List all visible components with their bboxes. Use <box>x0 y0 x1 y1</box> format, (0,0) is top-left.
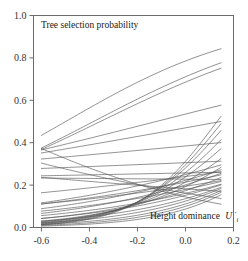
y-tick-label: 0.8 <box>14 52 27 63</box>
x-tick-label: -0.2 <box>130 235 146 246</box>
probability-curve <box>41 105 221 150</box>
probability-curve <box>41 49 221 136</box>
panel-title: Tree selection probability <box>41 20 139 30</box>
x-tick-label: -0.4 <box>82 235 98 246</box>
x-axis-title: Height dominance U ′ i <box>150 208 238 223</box>
x-axis-title-text: Height dominance <box>150 211 220 221</box>
x-axis-symbol: U <box>225 211 233 221</box>
x-tick-label: -0.6 <box>34 235 50 246</box>
x-axis: -0.6-0.4-0.20.00.2 <box>34 228 240 246</box>
y-tick-label: 0.2 <box>14 180 27 191</box>
probability-curve <box>41 63 221 148</box>
plot-curves <box>41 49 221 226</box>
x-tick-label: 0.0 <box>179 235 192 246</box>
y-tick-label: 1.0 <box>14 10 27 21</box>
y-tick-label: 0.6 <box>14 95 27 106</box>
probability-curve <box>41 178 221 179</box>
chart-figure: 0.00.20.40.60.81.0 -0.6-0.4-0.20.00.2 Tr… <box>0 0 248 261</box>
x-tick-label: 0.2 <box>227 235 240 246</box>
tree-selection-probability-plot: 0.00.20.40.60.81.0 -0.6-0.4-0.20.00.2 Tr… <box>0 0 248 261</box>
x-axis-symbol-subscript: i <box>236 216 238 223</box>
probability-curve <box>41 161 221 168</box>
y-tick-label: 0.4 <box>14 137 27 148</box>
y-tick-label: 0.0 <box>14 222 27 233</box>
y-axis: 0.00.20.40.60.81.0 <box>14 10 34 233</box>
svg-text:Height dominance U: Height dominance U ′ i <box>150 208 238 223</box>
